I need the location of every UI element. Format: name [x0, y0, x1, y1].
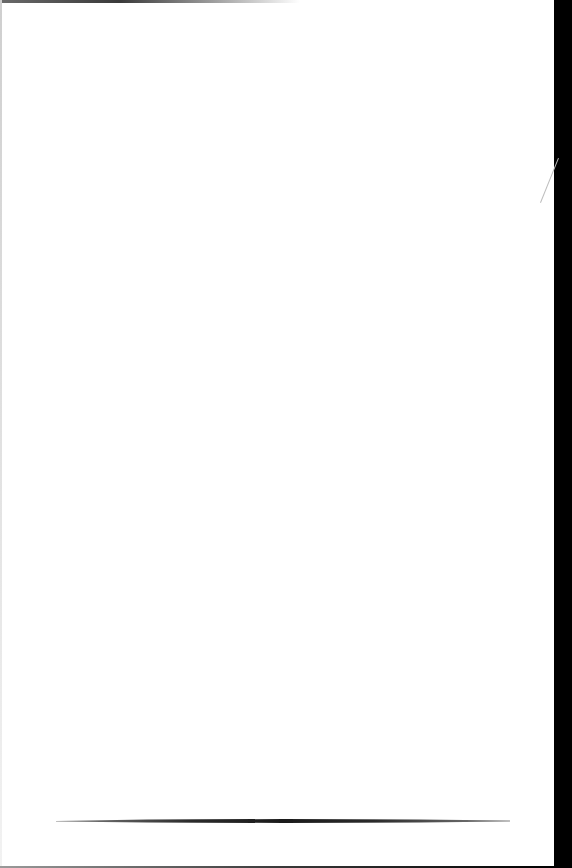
document-page [0, 0, 554, 868]
scan-left-edge [0, 0, 2, 868]
scan-right-margin [554, 0, 572, 868]
scan-top-shadow [0, 0, 300, 3]
footer-rule-divider [56, 819, 510, 823]
